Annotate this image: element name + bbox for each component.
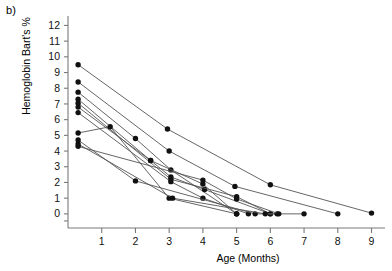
data-point: [369, 210, 374, 215]
y-tick-label: 5: [54, 129, 60, 141]
data-point: [148, 158, 153, 163]
scatter-line-plot: 0123456789101112123456789: [0, 0, 392, 271]
data-point: [268, 182, 273, 187]
data-point: [200, 177, 205, 182]
panel-label: b): [6, 4, 16, 16]
data-point: [75, 104, 80, 109]
x-tick-label: 7: [301, 235, 307, 247]
data-point: [166, 148, 171, 153]
data-point: [335, 211, 340, 216]
y-tick-label: 0: [54, 207, 60, 219]
figure-panel-b: b) Hemoglobin Bart's % Age (Months) 0123…: [0, 0, 392, 271]
data-point: [133, 136, 138, 141]
data-point: [168, 179, 173, 184]
x-tick-label: 9: [369, 235, 375, 247]
x-tick-label: 4: [200, 235, 206, 247]
data-point: [234, 211, 239, 216]
y-tick-label: 9: [54, 66, 60, 78]
data-point: [107, 124, 112, 129]
data-point: [263, 211, 268, 216]
x-tick-label: 5: [234, 235, 240, 247]
x-tick-label: 6: [267, 235, 273, 247]
data-point: [276, 211, 281, 216]
x-tick-label: 3: [166, 235, 172, 247]
data-point: [232, 184, 237, 189]
x-tick-label: 2: [133, 235, 139, 247]
data-point: [75, 144, 80, 149]
y-tick-label: 6: [54, 113, 60, 125]
series-subject-10: [75, 141, 279, 216]
series-subject-2: [75, 79, 340, 216]
series-line: [78, 127, 237, 214]
y-tick-label: 8: [54, 82, 60, 94]
x-tick-label: 8: [335, 235, 341, 247]
y-tick-label: 11: [49, 35, 60, 47]
y-tick-label: 3: [54, 160, 60, 172]
tick-label-layer: 0123456789101112123456789: [48, 19, 374, 247]
series-line: [78, 82, 338, 214]
data-series-layer: [75, 62, 374, 217]
y-tick-label: 1: [54, 192, 60, 204]
y-tick-label: 2: [54, 176, 60, 188]
data-point: [75, 89, 80, 94]
y-tick-label: 10: [48, 50, 60, 62]
x-axis-label-text: Age (Months): [216, 252, 279, 264]
data-point: [75, 62, 80, 67]
y-tick-label: 4: [54, 145, 60, 157]
data-point: [133, 178, 138, 183]
x-tick-label: 1: [99, 235, 105, 247]
data-point: [170, 195, 175, 200]
data-point: [301, 211, 306, 216]
data-point: [234, 196, 239, 201]
y-tick-label: 12: [48, 19, 60, 31]
axis-layer: [64, 16, 385, 233]
data-point: [75, 130, 80, 135]
data-point: [75, 110, 80, 115]
y-tick-label: 7: [54, 98, 60, 110]
data-point: [165, 126, 170, 131]
data-point: [75, 79, 80, 84]
series-subject-3: [75, 89, 239, 216]
y-axis-label: Hemoglobin Bart's %: [20, 0, 32, 146]
x-axis-label: Age (Months): [0, 252, 392, 264]
